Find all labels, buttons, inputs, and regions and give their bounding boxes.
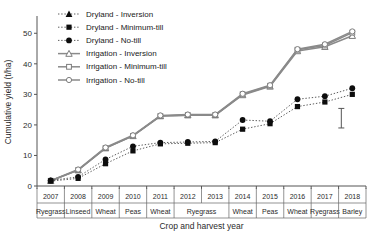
legend-label: Irrigation - No-till (86, 76, 145, 85)
x-axis-year-label: 2015 (262, 193, 278, 200)
x-axis-crop-label: Wheat (233, 208, 253, 215)
data-point-irrigation-no-till (350, 29, 355, 34)
data-point-dryland-no-till (322, 93, 328, 99)
data-point-dryland-no-till (295, 96, 301, 102)
data-point-dryland-no-till (185, 139, 191, 145)
x-axis-crop-label: Wheat (287, 208, 307, 215)
x-axis-year-label: 2012 (180, 193, 196, 200)
data-point-dryland-no-till (48, 178, 54, 184)
x-axis-crop-label: Peas (262, 208, 278, 215)
x-axis-year-label: 2008 (70, 193, 86, 200)
data-point-irrigation-no-till (76, 167, 81, 172)
y-axis-tick-label: 40 (23, 60, 32, 69)
legend-label: Irrigation - Inversion (86, 49, 157, 58)
x-axis-title: Crop and harvest year (159, 221, 243, 231)
series-line-dryland-no-till (51, 88, 353, 180)
series-line-dryland-minimum-till (51, 94, 353, 181)
x-axis-crop-label: Ryegrass (36, 208, 66, 216)
chart-container: 01020304050Cumulative yield (t/ha)200720… (0, 0, 367, 240)
legend-label: Dryland - Minimum-till (86, 23, 164, 32)
legend-label: Dryland - No-till (86, 36, 141, 45)
data-point-irrigation-no-till (240, 91, 245, 96)
y-axis-tick-label: 0 (28, 182, 33, 191)
data-point-irrigation-no-till (213, 112, 218, 117)
data-point-irrigation-no-till (322, 42, 327, 47)
x-axis-crop-label: Barley (342, 208, 362, 216)
y-axis-title: Cumulative yield (t/ha) (3, 60, 13, 145)
x-axis-year-label: 2007 (43, 193, 59, 200)
data-point-dryland-no-till (103, 157, 109, 163)
data-point-dryland-minimum-till (350, 92, 355, 97)
data-point-dryland-no-till (157, 140, 163, 146)
data-point-irrigation-no-till (158, 113, 163, 118)
data-point-irrigation-no-till (103, 145, 108, 150)
x-axis-year-label: 2013 (207, 193, 223, 200)
data-point-dryland-minimum-till (240, 127, 245, 132)
x-axis-year-label: 2018 (345, 193, 361, 200)
cumulative-yield-line-chart: 01020304050Cumulative yield (t/ha)200720… (0, 0, 367, 240)
legend-label: Dryland - Inversion (86, 10, 153, 19)
x-axis-year-label: 2011 (153, 193, 168, 200)
data-point-dryland-minimum-till (295, 104, 300, 109)
x-axis-crop-label: Linseed (66, 208, 91, 215)
x-axis-year-label: 2009 (98, 193, 114, 200)
legend-marker-circle-open (66, 77, 71, 82)
y-axis-tick-label: 20 (23, 121, 32, 130)
legend-marker-circle-filled (66, 38, 72, 44)
data-point-irrigation-no-till (267, 83, 272, 88)
data-point-dryland-no-till (130, 143, 136, 149)
legend-marker-square-filled (66, 25, 71, 30)
x-axis-crop-label: Wheat (95, 208, 115, 215)
y-axis-tick-label: 10 (23, 151, 32, 160)
data-point-irrigation-no-till (130, 133, 135, 138)
data-point-dryland-no-till (75, 174, 81, 180)
x-axis-crop-label: Ryegrass (310, 208, 340, 216)
legend-marker-square-open (67, 64, 72, 69)
x-axis-year-label: 2010 (125, 193, 141, 200)
y-axis-tick-label: 50 (23, 29, 32, 38)
data-point-dryland-no-till (212, 139, 218, 145)
y-axis-tick-label: 30 (23, 90, 32, 99)
x-axis-year-label: 2014 (235, 193, 251, 200)
x-axis-crop-label: Ryegrass (187, 208, 217, 216)
data-point-dryland-no-till (240, 117, 246, 123)
data-point-irrigation-no-till (185, 112, 190, 117)
data-point-dryland-minimum-till (322, 99, 327, 104)
x-axis-year-label: 2016 (290, 193, 306, 200)
legend-label: Irrigation - Minimum-till (86, 62, 167, 71)
data-point-irrigation-no-till (295, 47, 300, 52)
x-axis-year-label: 2017 (317, 193, 333, 200)
x-axis-crop-label: Wheat (150, 208, 170, 215)
data-point-dryland-no-till (349, 85, 355, 91)
data-point-dryland-no-till (267, 118, 273, 124)
x-axis-crop-label: Peas (125, 208, 141, 215)
